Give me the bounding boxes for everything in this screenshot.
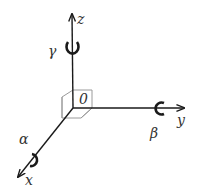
x-axis-label: x [25,172,33,188]
origin-label: 0 [79,91,88,107]
z-axis [72,14,73,108]
z-axis-label: z [76,11,85,27]
alpha-label: α [19,131,29,147]
coordinate-axes-diagram: z γ 0 y β α x [0,0,201,196]
gamma-label: γ [48,43,57,59]
y-axis-label: y [176,112,186,128]
beta-label: β [149,125,158,141]
